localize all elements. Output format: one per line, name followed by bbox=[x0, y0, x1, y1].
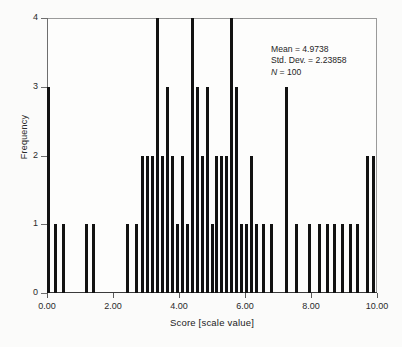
y-axis-tick-label: 3 bbox=[10, 82, 38, 91]
y-axis-tick bbox=[41, 224, 47, 225]
stat-mean-label: Mean = bbox=[271, 44, 302, 54]
x-axis-tick-label: 4.00 bbox=[159, 301, 199, 311]
histogram-bar bbox=[270, 224, 273, 293]
histogram-bar bbox=[166, 87, 169, 293]
histogram-bar bbox=[176, 224, 179, 293]
y-axis-tick-label: 1 bbox=[10, 219, 38, 228]
histogram-bar bbox=[285, 87, 288, 293]
histogram-bar bbox=[245, 224, 248, 293]
x-axis-tick bbox=[245, 293, 246, 298]
stat-n-line: N = 100 bbox=[271, 67, 347, 78]
stat-n-value: = 100 bbox=[277, 67, 301, 77]
y-axis-title: Frequency bbox=[19, 92, 29, 182]
x-axis-tick bbox=[47, 293, 48, 298]
histogram-bar bbox=[85, 224, 88, 293]
histogram-bar bbox=[171, 156, 174, 294]
histogram-bar bbox=[186, 224, 189, 293]
histogram-bar bbox=[341, 224, 344, 293]
y-axis-tick bbox=[41, 156, 47, 157]
x-axis-tick-label: 2.00 bbox=[93, 301, 133, 311]
x-axis-tick bbox=[311, 293, 312, 298]
histogram-bar bbox=[201, 156, 204, 294]
histogram-bar bbox=[356, 224, 359, 293]
histogram-bar bbox=[92, 224, 95, 293]
histogram-bar bbox=[62, 224, 65, 293]
histogram-bar bbox=[349, 224, 352, 293]
stat-mean-value: 4.9738 bbox=[302, 44, 328, 54]
histogram-chart: 01234 0.002.004.006.008.0010.00 Frequenc… bbox=[0, 0, 402, 347]
stat-sd-value: 2.23858 bbox=[316, 55, 347, 65]
x-axis-tick bbox=[179, 293, 180, 298]
stat-mean-line: Mean = 4.9738 bbox=[271, 44, 347, 55]
histogram-bar bbox=[141, 156, 144, 294]
histogram-bar bbox=[250, 156, 253, 294]
x-axis-tick-label: 8.00 bbox=[291, 301, 331, 311]
histogram-bar bbox=[181, 156, 184, 294]
histogram-bar bbox=[151, 156, 154, 294]
histogram-bar bbox=[215, 156, 218, 294]
histogram-bar bbox=[366, 156, 369, 294]
histogram-bar bbox=[196, 87, 199, 293]
histogram-bar bbox=[211, 224, 214, 293]
x-axis-title: Score [scale value] bbox=[47, 317, 377, 328]
y-axis-tick-label: 0 bbox=[10, 288, 38, 297]
histogram-bar bbox=[295, 224, 298, 293]
histogram-bar bbox=[372, 156, 375, 294]
histogram-bar bbox=[47, 87, 50, 293]
histogram-bar bbox=[333, 224, 336, 293]
histogram-bar bbox=[230, 18, 233, 293]
y-axis-tick bbox=[41, 18, 47, 19]
histogram-bar bbox=[220, 156, 223, 294]
histogram-bar bbox=[318, 224, 321, 293]
histogram-bar bbox=[308, 224, 311, 293]
statistics-annotation: Mean = 4.9738 Std. Dev. = 2.23858 N = 10… bbox=[271, 44, 347, 78]
histogram-bar bbox=[255, 224, 258, 293]
histogram-bar bbox=[135, 224, 138, 293]
x-axis-tick-label: 6.00 bbox=[225, 301, 265, 311]
histogram-bar bbox=[161, 156, 164, 294]
histogram-bar bbox=[156, 18, 159, 293]
x-axis-tick-label: 10.00 bbox=[357, 301, 397, 311]
x-axis-tick bbox=[377, 293, 378, 298]
y-axis-tick-label: 4 bbox=[10, 13, 38, 22]
y-axis-tick bbox=[41, 87, 47, 88]
histogram-bar bbox=[240, 224, 243, 293]
histogram-bar bbox=[126, 224, 129, 293]
histogram-bar bbox=[225, 156, 228, 294]
histogram-bar bbox=[54, 224, 57, 293]
x-axis-tick-label: 0.00 bbox=[27, 301, 67, 311]
stat-sd-label: Std. Dev. = bbox=[271, 55, 316, 65]
x-axis-tick bbox=[113, 293, 114, 298]
histogram-bar bbox=[146, 156, 149, 294]
histogram-bar bbox=[206, 87, 209, 293]
stat-sd-line: Std. Dev. = 2.23858 bbox=[271, 55, 347, 66]
histogram-bar bbox=[235, 87, 238, 293]
histogram-bar bbox=[326, 224, 329, 293]
histogram-bar bbox=[262, 224, 265, 293]
histogram-bar bbox=[191, 18, 194, 293]
